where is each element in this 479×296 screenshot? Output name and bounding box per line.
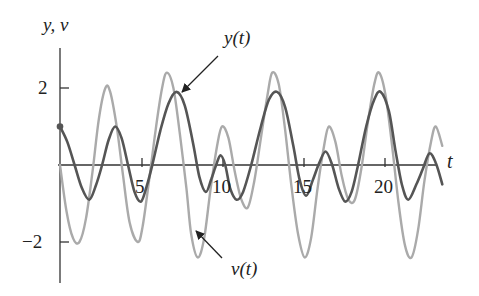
y-tick-label-2: 2: [38, 77, 48, 99]
x-tick-label-5: 5: [135, 176, 145, 198]
y-initial-point-marker: [57, 123, 64, 130]
x-tick-label-20: 20: [374, 176, 393, 198]
y-annotation-arrow: [182, 56, 218, 92]
y-series-annotation: y(t): [224, 27, 250, 49]
y-tick-label-neg2: −2: [22, 231, 42, 253]
x-axis-label: t: [447, 150, 453, 173]
x-tick-label-10: 10: [212, 176, 231, 198]
v-series-annotation: v(t): [231, 258, 257, 280]
x-tick-label-15: 15: [293, 176, 312, 198]
y-axis-label: y, v: [43, 14, 68, 36]
